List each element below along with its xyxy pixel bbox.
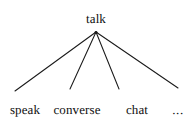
node-label-leaf-ellipsis: ... <box>172 103 184 116</box>
node-label-leaf-converse: converse <box>54 103 101 116</box>
edge-talk-converse <box>70 32 96 89</box>
edge-talk-speak <box>15 32 96 91</box>
node-label-leaf-speak: speak <box>10 103 40 116</box>
root-apex-node <box>94 31 97 34</box>
taxonomy-tree-diagram: talk speak converse chat ... <box>0 0 193 129</box>
node-label-leaf-chat: chat <box>126 103 148 116</box>
node-label-root-talk: talk <box>86 12 106 25</box>
edge-talk-chat <box>96 32 119 89</box>
edge-talk-ellipsis <box>96 32 178 88</box>
